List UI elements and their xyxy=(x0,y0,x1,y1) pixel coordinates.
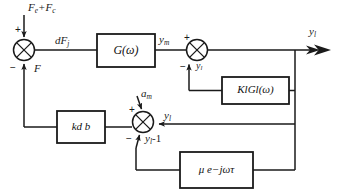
label-feedback-force-main: F xyxy=(34,62,41,74)
block-diagram-graphics xyxy=(0,0,341,192)
label-yl-junction-2: yl xyxy=(196,61,202,72)
label-ym: ym xyxy=(159,34,169,46)
sign-plus-junction-3: + xyxy=(129,105,135,115)
label-input-force-main: F xyxy=(28,1,35,13)
label-yl-junction-2-sub: l xyxy=(200,64,202,71)
label-am: am xyxy=(141,88,152,100)
block-label-kl-g: G xyxy=(248,83,256,95)
label-am-sub: m xyxy=(147,92,152,101)
label-error-force: dFj xyxy=(55,35,69,47)
sign-minus-junction-2: − xyxy=(180,62,186,72)
block-label-kl-k: K xyxy=(237,83,244,95)
label-ym-sub: m xyxy=(164,38,169,47)
block-label-g-omega-text: G(ω) xyxy=(113,43,138,57)
label-yl-minus-one: yl-1 xyxy=(145,133,161,145)
block-label-mu-delay: μ e−jωτ xyxy=(180,164,253,175)
sign-minus-junction-1: − xyxy=(10,63,16,73)
label-yl-junction-3: yl xyxy=(164,110,171,122)
block-label-mu-exponent: −jωτ xyxy=(212,163,234,175)
wire-ylm1-arrow xyxy=(136,135,140,148)
sign-plus-junction-1: + xyxy=(15,25,21,35)
label-input-force-plus: +F xyxy=(38,1,52,13)
label-error-force-sub: j xyxy=(67,39,69,48)
block-label-kl-arg: (ω) xyxy=(259,83,274,95)
block-label-kd-b: kd b xyxy=(57,121,105,132)
label-yl-minus-one-tail: -1 xyxy=(152,132,161,144)
sign-minus-junction-3: − xyxy=(126,134,132,144)
diagram-canvas: Fe+Fc + − F dFj G(ω) ym + − yl KlGl(ω) y… xyxy=(0,0,341,192)
label-input-force: Fe+Fc xyxy=(28,2,56,14)
sign-plus-junction-2: + xyxy=(184,33,190,43)
label-input-force-sub-c: c xyxy=(52,6,55,15)
block-label-kd-sub: d xyxy=(77,120,83,132)
label-error-force-main: dF xyxy=(55,34,67,46)
block-label-g-omega: G(ω) xyxy=(97,44,155,56)
label-feedback-force: F xyxy=(34,63,41,74)
block-label-mu-main: μ e xyxy=(199,163,212,175)
label-output-yl: yl xyxy=(309,26,316,38)
label-yl-junction-3-sub: l xyxy=(169,114,171,123)
block-label-kd-b-text: b xyxy=(85,120,91,132)
block-label-kl-gl-omega: KlGl(ω) xyxy=(222,84,289,95)
label-output-yl-sub: l xyxy=(314,30,316,39)
